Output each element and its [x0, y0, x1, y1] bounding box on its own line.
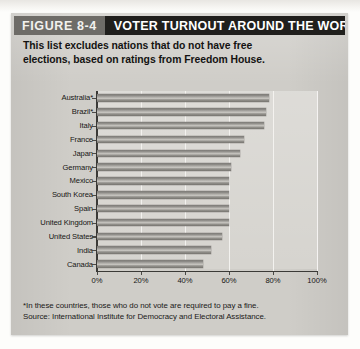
bar: [97, 191, 229, 199]
figure-number-label: FIGURE 8-4: [14, 16, 105, 35]
figure-subtitle-line-2: elections, based on ratings from Freedom…: [23, 53, 333, 67]
figure-title: VOTER TURNOUT AROUND THE WORLD: [105, 16, 345, 35]
x-axis-tick: [185, 272, 186, 275]
gridline: [229, 91, 230, 271]
category-label: South Korea: [15, 190, 93, 199]
bar: [97, 205, 229, 213]
category-label: United States: [15, 232, 93, 241]
y-axis-tick: [92, 195, 96, 196]
figure-panel: FIGURE 8-4 VOTER TURNOUT AROUND THE WORL…: [11, 13, 348, 335]
bar-chart: Australia*Brazil*ItalyFranceJapanGermany…: [14, 83, 345, 295]
figure-header-bar: FIGURE 8-4 VOTER TURNOUT AROUND THE WORL…: [14, 16, 345, 35]
gridline: [317, 91, 318, 271]
y-axis-tick: [92, 223, 96, 224]
bar: [97, 163, 231, 171]
y-axis-tick: [92, 250, 96, 251]
bar: [97, 246, 211, 254]
category-label: Italy: [15, 121, 93, 130]
y-axis-tick: [92, 140, 96, 141]
y-axis-tick: [92, 112, 96, 113]
category-label: Mexico: [15, 176, 93, 185]
figure-source: Source: International Institute for Demo…: [23, 312, 343, 323]
x-axis-tick: [141, 272, 142, 275]
category-label: Canada: [15, 260, 93, 269]
y-axis-tick: [92, 209, 96, 210]
figure-footnotes: *In these countries, those who do not vo…: [23, 301, 343, 323]
bar: [97, 177, 229, 185]
y-axis-tick: [92, 98, 96, 99]
y-axis-tick: [92, 153, 96, 154]
gridline: [273, 91, 274, 271]
category-label: India: [15, 246, 93, 255]
figure-subtitle: This list excludes nations that do not h…: [23, 39, 333, 66]
bar: [97, 94, 269, 102]
x-axis-tick-label: 0%: [92, 276, 103, 285]
bar: [97, 219, 229, 227]
x-axis-tick: [97, 272, 98, 275]
category-label: Germany: [15, 163, 93, 172]
y-axis-tick: [92, 264, 96, 265]
x-axis-tick-label: 100%: [307, 276, 326, 285]
bar: [97, 136, 244, 144]
category-label: Japan: [15, 149, 93, 158]
category-label: Spain: [15, 204, 93, 213]
figure-page: FIGURE 8-4 VOTER TURNOUT AROUND THE WORL…: [0, 0, 360, 349]
category-label: Brazil*: [15, 107, 93, 116]
category-label: Australia*: [15, 93, 93, 102]
x-axis-tick-label: 20%: [133, 276, 148, 285]
bar: [97, 122, 264, 130]
category-label: France: [15, 135, 93, 144]
bar: [97, 233, 222, 241]
y-axis-tick: [92, 181, 96, 182]
category-axis-labels: Australia*Brazil*ItalyFranceJapanGermany…: [14, 83, 93, 279]
category-label: United Kingdom: [15, 218, 93, 227]
y-axis-tick: [92, 167, 96, 168]
bar: [97, 150, 240, 158]
x-axis-tick-label: 40%: [177, 276, 192, 285]
x-axis-tick-label: 60%: [221, 276, 236, 285]
figure-subtitle-line-1: This list excludes nations that do not h…: [23, 39, 333, 53]
y-axis-tick: [92, 126, 96, 127]
y-axis-tick: [92, 236, 96, 237]
x-axis-line: [96, 271, 318, 272]
page-top-edge: [0, 0, 360, 12]
x-axis-tick: [229, 272, 230, 275]
figure-footnote: *In these countries, those who do not vo…: [23, 301, 343, 312]
x-axis-tick: [273, 272, 274, 275]
bar: [97, 108, 266, 116]
x-axis-tick: [317, 272, 318, 275]
bar: [97, 260, 203, 268]
x-axis-tick-label: 80%: [265, 276, 280, 285]
